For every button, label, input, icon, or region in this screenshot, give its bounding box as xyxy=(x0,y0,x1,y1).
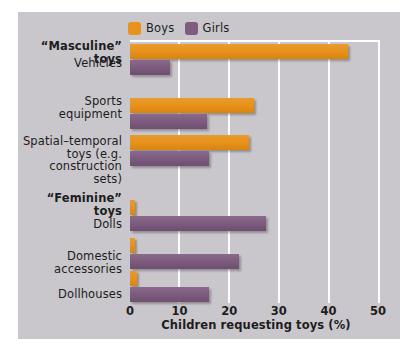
bar-girls-dolls xyxy=(130,216,266,231)
bar-boys-vehicles xyxy=(130,44,348,59)
legend-label-boys: Boys xyxy=(146,21,175,35)
x-tick-30: 30 xyxy=(271,304,287,318)
x-tick-0: 0 xyxy=(126,304,134,318)
y-label-vehicles: Vehicles xyxy=(74,57,122,70)
chart-legend: Boys Girls xyxy=(128,18,230,38)
bar-face xyxy=(130,238,135,253)
bar-face xyxy=(130,114,207,129)
y-label-domestic-accessories: Domestic accessories xyxy=(54,250,122,275)
bar-girls-spatial-temporal-toys xyxy=(130,151,209,166)
bar-face xyxy=(130,151,209,166)
bar-boys-dollhouses xyxy=(130,271,137,286)
bar-face xyxy=(130,271,137,286)
x-tick-10: 10 xyxy=(172,304,188,318)
bar-face xyxy=(130,200,135,215)
x-tick-40: 40 xyxy=(320,304,336,318)
bar-face xyxy=(130,60,170,75)
bar-boys-dolls xyxy=(130,200,135,215)
plot-area xyxy=(130,40,380,303)
bar-girls-vehicles xyxy=(130,60,170,75)
y-label-sports-equipment: Sports equipment xyxy=(59,95,122,120)
bars-group xyxy=(130,42,378,303)
x-tick-20: 20 xyxy=(221,304,237,318)
bar-face xyxy=(130,287,209,302)
y-label-dollhouses: Dollhouses xyxy=(58,288,122,301)
bar-girls-domestic-accessories xyxy=(130,254,239,269)
bar-face xyxy=(130,216,266,231)
x-axis-ticks: 0 10 20 30 40 50 xyxy=(130,304,382,318)
legend-entry-girls: Girls xyxy=(185,21,230,35)
x-axis-title: Children requesting toys (%) xyxy=(130,318,382,332)
y-label-dolls: Dolls xyxy=(93,218,122,231)
bar-boys-sports-equipment xyxy=(130,98,254,113)
bar-girls-dollhouses xyxy=(130,287,209,302)
bar-face xyxy=(130,44,348,59)
bar-face xyxy=(130,98,254,113)
y-label-feminine-toys-heading: “Feminine” toys xyxy=(18,192,122,217)
legend-swatch-girls-icon xyxy=(185,22,198,35)
bar-girls-sports-equipment xyxy=(130,114,207,129)
y-axis-labels: “Masculine” toys Vehicles Sports equipme… xyxy=(18,40,126,301)
bar-face xyxy=(130,254,239,269)
bar-face xyxy=(130,135,249,150)
legend-entry-boys: Boys xyxy=(128,21,175,35)
bar-boys-spatial-temporal-toys xyxy=(130,135,249,150)
legend-swatch-boys-icon xyxy=(128,22,141,35)
x-tick-50: 50 xyxy=(370,304,386,318)
chart-figure: Boys Girls “Masculine” toys Vehicles Spo… xyxy=(18,12,400,339)
legend-label-girls: Girls xyxy=(203,21,230,35)
y-label-spatial-temporal-toys: Spatial–temporal toys (e.g. construction… xyxy=(18,135,122,185)
bar-boys-domestic-accessories xyxy=(130,238,135,253)
